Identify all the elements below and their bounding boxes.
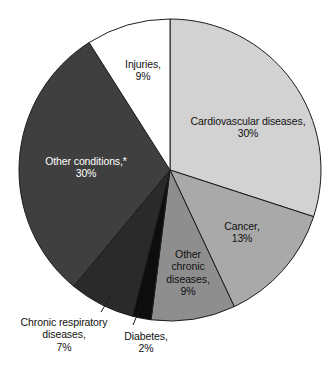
pie-chart-canvas [0, 0, 335, 370]
pie-slice-group [19, 19, 321, 321]
pie-chart: Cardiovascular diseases, 30% Cancer, 13%… [0, 0, 335, 370]
